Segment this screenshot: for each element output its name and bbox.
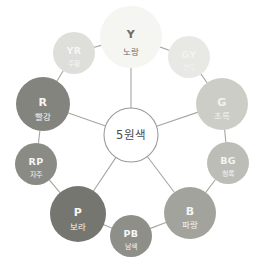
ring-link-pb-p	[104, 225, 112, 228]
hue-name-g: 초록	[214, 111, 230, 121]
spoke-link-center-b	[147, 157, 174, 193]
hue-node-pb[interactable]: PB남색	[110, 215, 152, 257]
color-wheel-canvas: Y노랑GY연두G초록BG청록B파랑PB남색P보라RP자주R빨강YR주황 5원색	[0, 0, 262, 267]
center-label: 5원색	[116, 128, 146, 142]
hue-code-rp: RP	[29, 156, 44, 167]
hue-code-g: G	[217, 96, 226, 109]
hue-name-r: 빨강	[35, 112, 51, 122]
ring-link-p-rp	[50, 180, 60, 192]
hue-code-yr: YR	[66, 45, 82, 56]
hue-code-bg: BG	[220, 155, 236, 166]
ring-link-rp-r	[38, 131, 39, 143]
hue-code-p: P	[74, 206, 82, 219]
hue-code-pb: PB	[124, 228, 139, 239]
ring-link-yr-y	[94, 45, 101, 47]
hue-code-b: B	[186, 205, 195, 218]
ring-link-bg-b	[206, 180, 216, 193]
hue-node-gy[interactable]: GY연두	[168, 36, 210, 78]
ring-link-b-pb	[151, 222, 166, 228]
center-node[interactable]: 5원색	[104, 108, 158, 162]
ring-link-g-bg	[225, 130, 226, 142]
hue-name-gy: 연두	[183, 64, 196, 72]
hue-code-y: Y	[126, 28, 136, 41]
hue-node-b[interactable]: B파랑	[164, 187, 216, 239]
hue-node-bg[interactable]: BG청록	[207, 142, 249, 184]
hue-node-rp[interactable]: RP자주	[15, 143, 57, 185]
hue-name-p: 보라	[70, 222, 86, 232]
spoke-link-center-p	[94, 157, 116, 190]
hue-name-bg: 청록	[222, 170, 235, 178]
hue-code-gy: GY	[181, 49, 196, 60]
hue-node-p[interactable]: P보라	[50, 186, 106, 242]
hue-code-r: R	[39, 96, 48, 109]
hue-node-g[interactable]: G초록	[196, 78, 248, 130]
spoke-link-center-g	[157, 112, 198, 126]
center-node-group: 5원색	[104, 108, 158, 162]
hue-name-pb: 남색	[125, 242, 137, 251]
spoke-link-center-r	[68, 113, 105, 126]
ring-link-gy-g	[201, 74, 207, 83]
hue-name-yr: 주황	[68, 59, 81, 68]
hue-node-r[interactable]: R빨강	[16, 77, 70, 131]
hue-name-y: 노랑	[123, 47, 139, 57]
hue-node-yr[interactable]: YR주황	[53, 32, 95, 74]
hue-name-b: 파랑	[182, 220, 198, 230]
ring-link-y-gy	[160, 47, 169, 50]
color-wheel-diagram: Y노랑GY연두G초록BG청록B파랑PB남색P보라RP자주R빨강YR주황 5원색	[0, 0, 262, 267]
hue-name-rp: 자주	[30, 170, 43, 179]
hue-node-y[interactable]: Y노랑	[100, 6, 162, 68]
ring-link-r-yr	[57, 71, 63, 81]
